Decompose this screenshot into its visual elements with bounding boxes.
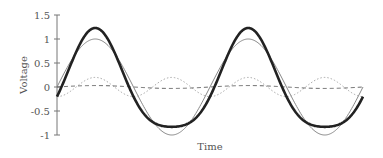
y-tick-label: -0.5 xyxy=(31,106,50,117)
series-fundamental-line xyxy=(57,39,363,135)
series-group xyxy=(57,28,363,135)
y-axis-label: Voltage xyxy=(18,56,29,95)
y-tick-label: -1 xyxy=(40,130,50,141)
x-axis-label: Time xyxy=(197,141,222,152)
y-tick-label: 0.5 xyxy=(34,58,50,69)
y-tick-label: 1.5 xyxy=(34,10,50,21)
voltage-chart: 1.510.50-0.5-1 Voltage Time xyxy=(0,0,383,158)
y-tick-label: 0 xyxy=(44,82,50,93)
y-tick-label: 1 xyxy=(44,34,50,45)
series-sum-line xyxy=(57,28,363,127)
y-axis: 1.510.50-0.5-1 xyxy=(31,10,60,141)
